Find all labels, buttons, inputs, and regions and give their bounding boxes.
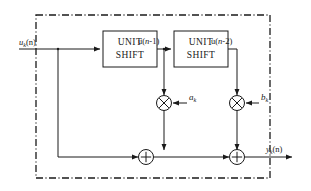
coefficient-label-a: ak xyxy=(189,92,197,103)
output-label: yk(n) xyxy=(265,144,283,155)
unit-shift-2-line1: UNIT xyxy=(189,37,213,47)
diagram-canvas: uk(n) yk(n) UNIT SHIFT UNIT SHIFT u(n-1)… xyxy=(0,0,311,191)
filter-block-diagram: uk(n) yk(n) UNIT SHIFT UNIT SHIFT u(n-1)… xyxy=(0,0,311,191)
coefficient-label-b: bk xyxy=(261,92,269,103)
unit-shift-2-line2: SHIFT xyxy=(187,50,215,60)
unit-shift-1-line2: SHIFT xyxy=(116,50,144,60)
signal-label-un2: u(n-2) xyxy=(211,36,232,46)
wire-un2 xyxy=(228,49,237,95)
input-label: uk(n) xyxy=(19,37,36,48)
signal-label-un1: u(n-1) xyxy=(138,36,159,46)
